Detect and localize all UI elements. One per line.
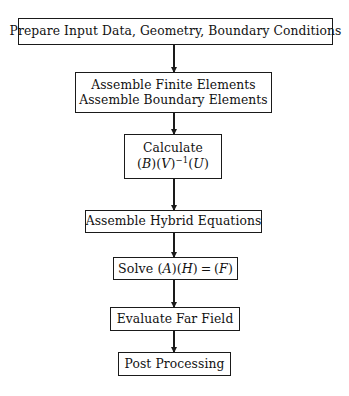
solve-paren-close-h: ) xyxy=(193,261,198,276)
calculate-variable-u: U xyxy=(193,156,204,171)
solve-paren-mid-ah: )( xyxy=(172,261,182,276)
node-assemble-hybrid-equations: Assemble Hybrid Equations xyxy=(85,210,262,233)
arrow-prepare-to-assemble xyxy=(173,45,175,72)
node-post-processing: Post Processing xyxy=(118,352,231,376)
flowchart-diagram: Prepare Input Data, Geometry, Boundary C… xyxy=(0,0,349,396)
solve-variable-h: H xyxy=(182,261,193,276)
calculate-paren-close-u: ) xyxy=(204,156,209,171)
node-calculate-label: Calculate xyxy=(143,141,203,156)
solve-paren-close-f: ) xyxy=(228,261,233,276)
solve-label: Solve xyxy=(118,261,153,276)
calculate-variable-v: V xyxy=(161,156,170,171)
calculate-exponent-minus-one: −1 xyxy=(176,155,189,165)
node-evaluate-far-field: Evaluate Far Field xyxy=(110,307,240,331)
node-solve-formula: Solve (A)(H)=(F) xyxy=(118,261,233,276)
node-assemble-boundary-label: Assemble Boundary Elements xyxy=(79,93,268,108)
arrow-hybrid-to-solve xyxy=(173,233,175,257)
node-calculate: Calculate (B)(V)−1(U) xyxy=(124,134,222,179)
solve-variable-a: A xyxy=(163,261,172,276)
node-assemble-elements: Assemble Finite Elements Assemble Bounda… xyxy=(75,72,272,113)
calculate-paren-mid-bv: )( xyxy=(151,156,161,171)
node-post-label: Post Processing xyxy=(125,357,225,372)
node-hybrid-label: Assemble Hybrid Equations xyxy=(86,214,262,229)
node-farfield-label: Evaluate Far Field xyxy=(117,312,234,327)
solve-equals-sign: = xyxy=(201,261,212,276)
node-solve-equations: Solve (A)(H)=(F) xyxy=(113,257,238,280)
arrow-farfield-to-post xyxy=(173,331,175,352)
node-prepare-input-data: Prepare Input Data, Geometry, Boundary C… xyxy=(18,18,333,45)
node-prepare-label: Prepare Input Data, Geometry, Boundary C… xyxy=(10,24,342,39)
arrow-calculate-to-hybrid xyxy=(173,179,175,210)
node-assemble-finite-label: Assemble Finite Elements xyxy=(91,78,256,93)
arrow-solve-to-farfield xyxy=(173,280,175,307)
solve-variable-f: F xyxy=(219,261,228,276)
arrow-assemble-to-calculate xyxy=(173,113,175,134)
node-calculate-formula: (B)(V)−1(U) xyxy=(137,156,209,171)
calculate-variable-b: B xyxy=(142,156,151,171)
